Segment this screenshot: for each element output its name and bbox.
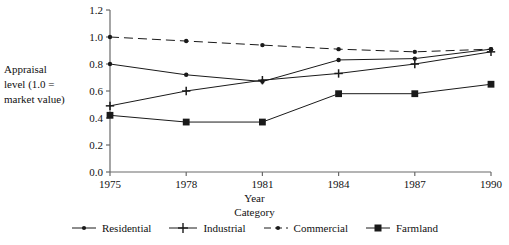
appraisal-level-line-chart: Appraisal level (1.0 = market value) 0.0… [0, 0, 509, 245]
legend-label-commercial: Commercial [294, 222, 348, 234]
legend-item-farmland[interactable]: Farmland [365, 222, 438, 234]
legend-item-commercial[interactable]: Commercial [263, 222, 348, 234]
data-point-industrial [334, 69, 342, 77]
legend-title: Category [0, 206, 509, 218]
legend-label-farmland: Farmland [396, 222, 438, 234]
x-tick-label: 1984 [328, 178, 351, 190]
series-line-farmland [110, 84, 491, 122]
y-tick-label: 0.4 [89, 112, 103, 124]
plot-area: 0.00.20.40.60.81.01.21975197819811984198… [0, 0, 509, 200]
data-point-residential [108, 62, 112, 66]
data-point-residential [336, 58, 340, 62]
x-tick-label: 1981 [251, 178, 273, 190]
commercial-marker-icon [263, 222, 289, 234]
y-tick-label: 0.8 [89, 58, 103, 70]
data-point-industrial [182, 87, 190, 95]
data-point-commercial [336, 47, 340, 51]
y-tick-label: 1.2 [89, 4, 103, 16]
x-tick-label: 1975 [99, 178, 122, 190]
data-point-residential [184, 73, 188, 77]
legend: Residential Industrial Commercial Farmla… [0, 222, 509, 234]
legend-item-industrial[interactable]: Industrial [168, 222, 245, 234]
data-point-farmland [411, 90, 418, 97]
legend-item-residential[interactable]: Residential [71, 222, 152, 234]
data-point-industrial [258, 76, 266, 84]
x-tick-label: 1978 [175, 178, 198, 190]
data-point-commercial [108, 35, 112, 39]
series-line-industrial [110, 52, 491, 106]
x-tick-label: 1990 [480, 178, 503, 190]
series-line-commercial [110, 37, 491, 52]
data-point-farmland [488, 81, 495, 88]
y-tick-label: 1.0 [89, 31, 103, 43]
residential-marker-icon [71, 222, 97, 234]
data-point-industrial [411, 60, 419, 68]
data-point-commercial [260, 43, 264, 47]
data-point-commercial [489, 47, 493, 51]
legend-label-industrial: Industrial [203, 222, 245, 234]
y-tick-label: 0.2 [89, 139, 103, 151]
x-axis-title: Year [0, 192, 509, 204]
legend-label-residential: Residential [102, 222, 152, 234]
industrial-marker-icon [168, 222, 198, 234]
data-point-commercial [413, 50, 417, 54]
data-point-commercial [184, 39, 188, 43]
data-point-farmland [107, 112, 114, 119]
y-tick-label: 0.0 [89, 166, 103, 178]
data-point-farmland [335, 90, 342, 97]
data-point-farmland [259, 119, 266, 126]
data-point-industrial [106, 102, 114, 110]
x-tick-label: 1987 [404, 178, 427, 190]
y-tick-label: 0.6 [89, 85, 103, 97]
data-point-farmland [183, 119, 190, 126]
farmland-marker-icon [365, 222, 391, 234]
